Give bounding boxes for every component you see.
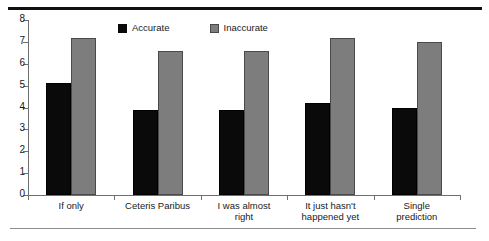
bar-group (114, 20, 200, 195)
x-axis-line (28, 195, 461, 196)
bar-group (374, 20, 460, 195)
category-label-line: Ceteris Paribus (114, 200, 200, 211)
bar-inaccurate (417, 42, 442, 195)
x-axis-category-label: If only (28, 200, 114, 211)
bar-accurate (392, 108, 417, 196)
y-axis-tick-label: 2 (19, 144, 25, 156)
bar-group (28, 20, 114, 195)
category-label-line: happened yet (287, 211, 373, 222)
category-label-line: If only (28, 200, 114, 211)
category-label-line: right (201, 211, 287, 222)
y-axis-tick-label: 1 (19, 166, 25, 178)
bar-chart-figure: 012345678 If onlyCeteris ParibusI was al… (0, 0, 489, 241)
y-axis-tick-label: 7 (19, 35, 25, 47)
legend-item-inaccurate: Inaccurate (210, 23, 268, 33)
accurate-swatch-icon (118, 24, 127, 33)
x-axis-separator (460, 195, 461, 200)
x-axis-category-label: Ceteris Paribus (114, 200, 200, 211)
plot-area: 012345678 (28, 20, 460, 195)
legend-item-accurate: Accurate (118, 23, 170, 33)
bottom-divider-rule (10, 228, 476, 229)
y-axis-tick-label: 3 (19, 122, 25, 134)
category-label-line: It just hasn't (287, 200, 373, 211)
x-axis-category-label: It just hasn'thappened yet (287, 200, 373, 222)
top-divider-rule (8, 7, 482, 10)
legend-label-inaccurate: Inaccurate (224, 23, 268, 33)
y-axis-tick-label: 0 (19, 188, 25, 200)
x-axis-category-label: I was almostright (201, 200, 287, 222)
y-axis-tick-label: 6 (19, 57, 25, 69)
bar-group (201, 20, 287, 195)
y-axis-tick-label: 4 (19, 101, 25, 113)
category-label-line: I was almost (201, 200, 287, 211)
inaccurate-swatch-icon (210, 24, 219, 33)
bar-accurate (305, 103, 330, 195)
category-label-line: Single (374, 200, 460, 211)
legend-label-accurate: Accurate (132, 23, 170, 33)
bar-group (287, 20, 373, 195)
x-axis-category-label: Singleprediction (374, 200, 460, 222)
bar-accurate (133, 110, 158, 195)
bar-inaccurate (158, 51, 183, 195)
category-label-line: prediction (374, 211, 460, 222)
bar-inaccurate (244, 51, 269, 195)
chart-legend: Accurate Inaccurate (118, 23, 268, 33)
y-axis-tick-label: 5 (19, 79, 25, 91)
bar-inaccurate (330, 38, 355, 196)
y-axis-tick-label: 8 (19, 13, 25, 25)
bar-inaccurate (71, 38, 96, 196)
bar-accurate (46, 83, 71, 195)
bar-accurate (219, 110, 244, 195)
